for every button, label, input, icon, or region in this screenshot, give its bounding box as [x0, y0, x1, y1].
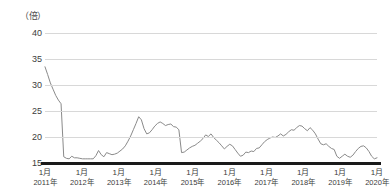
y-tick-label-20: 20 — [20, 132, 42, 142]
gridline-40 — [45, 33, 377, 34]
plot-area — [45, 33, 377, 163]
y-tick-label-35: 35 — [20, 54, 42, 64]
x-tick-month: 1月 — [354, 168, 391, 178]
y-tick-label-40: 40 — [20, 28, 42, 38]
gridline-35 — [45, 59, 377, 60]
gridline-30 — [45, 85, 377, 86]
gridline-20 — [45, 137, 377, 138]
y-tick-label-25: 25 — [20, 106, 42, 116]
y-tick-label-15: 15 — [20, 158, 42, 168]
x-axis-tick-labels: 1月2011年1月2012年1月2013年1月2014年1月2015年1月201… — [0, 168, 391, 194]
y-tick-label-30: 30 — [20, 80, 42, 90]
y-axis: 152025303540 — [18, 33, 42, 163]
y-axis-unit-label: （倍） — [20, 9, 46, 22]
x-axis-baseline — [41, 162, 381, 165]
series-line-per — [45, 33, 377, 163]
per-line-chart: （倍） 152025303540 1月2011年1月2012年1月2013年1月… — [0, 0, 391, 195]
x-tick-year: 2020年 — [354, 178, 391, 188]
gridline-25 — [45, 111, 377, 112]
x-tick-2020: 1月2020年 — [354, 168, 391, 188]
